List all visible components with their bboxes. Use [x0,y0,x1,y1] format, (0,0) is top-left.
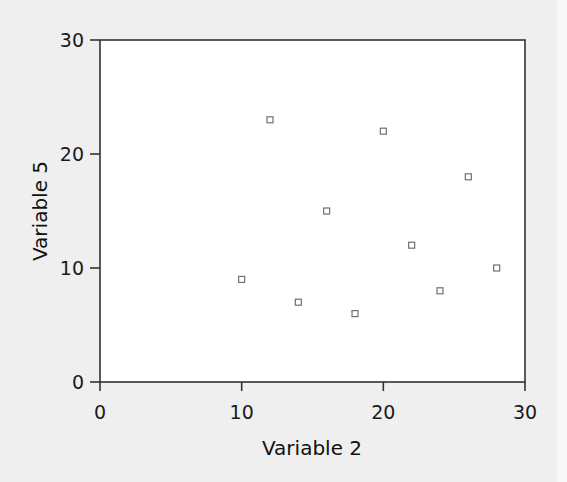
plot-area [100,40,525,382]
data-point [409,242,415,248]
y-tick-label: 20 [60,143,84,165]
data-point [267,117,273,123]
y-axis-title: Variable 5 [28,161,52,261]
x-tick-label: 30 [513,401,537,423]
data-point [437,288,443,294]
data-point [352,311,358,317]
y-tick-label: 10 [60,257,84,279]
x-tick-label: 10 [230,401,254,423]
y-axis: 0102030 [60,29,100,393]
x-tick-label: 0 [94,401,106,423]
data-point [324,208,330,214]
data-point [380,128,386,134]
data-point [295,299,301,305]
x-axis: 0102030 [94,382,537,423]
x-tick-label: 20 [371,401,395,423]
x-axis-title: Variable 2 [262,436,362,460]
y-tick-label: 30 [60,29,84,51]
data-point [494,265,500,271]
data-point [239,276,245,282]
scatter-chart: 0102030 0102030 Variable 2 Variable 5 [0,0,567,482]
data-point [465,174,471,180]
y-tick-label: 0 [72,371,84,393]
